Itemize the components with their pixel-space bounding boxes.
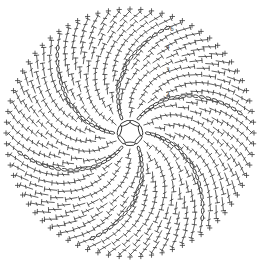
single-crochet-stitch [40, 218, 44, 222]
double-crochet-stitch [222, 88, 235, 95]
double-crochet-stitch [110, 196, 119, 205]
double-crochet-stitch [120, 197, 128, 207]
round-number-label: 4 [166, 43, 170, 50]
double-crochet-stitch [179, 174, 184, 185]
single-crochet-stitch [26, 202, 30, 206]
double-crochet-stitch [56, 129, 66, 136]
double-crochet-stitch [89, 26, 96, 39]
double-crochet-stitch [160, 166, 165, 176]
double-crochet-stitch [140, 90, 148, 99]
double-crochet-stitch [88, 242, 101, 250]
double-crochet-stitch [59, 108, 68, 118]
chain-link [120, 119, 131, 127]
double-crochet-stitch [34, 71, 39, 84]
double-crochet-stitch [193, 120, 204, 126]
center-chain-ring [117, 119, 144, 145]
double-crochet-stitch [49, 40, 53, 53]
double-crochet-stitch [110, 11, 120, 23]
double-crochet-stitch [122, 236, 133, 247]
double-crochet-stitch [142, 195, 148, 206]
double-crochet-stitch [131, 88, 137, 98]
double-crochet-stitch [204, 127, 215, 135]
double-crochet-stitch [77, 94, 84, 104]
double-crochet-stitch [153, 211, 159, 223]
double-crochet-stitch [169, 194, 173, 205]
round-number-label: 6 [170, 25, 174, 32]
double-crochet-stitch [216, 168, 223, 180]
double-crochet-stitch [113, 71, 118, 82]
double-crochet-stitch [221, 197, 225, 210]
double-crochet-stitch [185, 166, 191, 177]
double-crochet-stitch [110, 92, 114, 102]
double-crochet-stitch [76, 138, 86, 143]
double-crochet-stitch [79, 149, 89, 153]
double-crochet-stitch [41, 47, 45, 60]
double-crochet-stitch [219, 159, 227, 171]
double-crochet-stitch [60, 230, 74, 235]
double-crochet-stitch [147, 152, 153, 162]
double-crochet-stitch [101, 214, 112, 223]
double-crochet-stitch [28, 148, 40, 156]
double-crochet-stitch [69, 89, 75, 100]
double-crochet-stitch [139, 244, 149, 256]
double-crochet-stitch [48, 207, 61, 211]
single-crochet-stitch [57, 29, 61, 33]
double-crochet-stitch [209, 84, 221, 89]
double-crochet-stitch [222, 120, 233, 129]
double-crochet-stitch [47, 55, 51, 68]
double-crochet-stitch [76, 81, 81, 92]
double-crochet-stitch [71, 189, 82, 193]
double-crochet-stitch [202, 90, 214, 95]
double-crochet-stitch [200, 156, 208, 167]
double-crochet-stitch [164, 124, 174, 128]
double-crochet-stitch [100, 184, 110, 192]
double-crochet-stitch [132, 69, 139, 79]
double-crochet-stitch [154, 231, 162, 243]
double-crochet-stitch [19, 110, 28, 122]
double-crochet-stitch [215, 190, 219, 203]
double-crochet-stitch [100, 194, 110, 202]
double-crochet-stitch [151, 172, 155, 182]
double-crochet-stitch [182, 51, 194, 56]
double-crochet-stitch [52, 181, 64, 185]
double-crochet-stitch [183, 64, 195, 68]
double-crochet-stitch [100, 98, 106, 108]
double-crochet-stitch [17, 120, 27, 131]
double-crochet-stitch [171, 113, 181, 117]
double-crochet-stitch [74, 215, 86, 221]
double-crochet-stitch [231, 115, 243, 124]
double-crochet-stitch [98, 172, 108, 179]
double-crochet-stitch [138, 100, 145, 109]
double-crochet-stitch [135, 167, 139, 177]
double-crochet-stitch [108, 117, 116, 125]
double-crochet-stitch [185, 81, 196, 85]
double-crochet-stitch [63, 54, 67, 66]
double-crochet-stitch [37, 141, 48, 149]
double-crochet-stitch [119, 39, 127, 50]
double-crochet-stitch [170, 65, 181, 71]
double-crochet-stitch [190, 111, 201, 116]
double-crochet-stitch [162, 187, 166, 198]
double-crochet-stitch [144, 120, 154, 125]
double-crochet-stitch [197, 66, 209, 70]
double-crochet-stitch [159, 199, 164, 210]
double-crochet-stitch [196, 81, 208, 85]
chain-link [125, 142, 135, 146]
double-crochet-stitch [36, 130, 47, 139]
double-crochet-stitch [105, 84, 109, 94]
double-crochet-stitch [103, 64, 108, 75]
double-crochet-stitch [69, 235, 82, 241]
double-crochet-stitch [63, 160, 74, 164]
double-crochet-stitch [176, 162, 183, 172]
stitch-layer [4, 7, 256, 259]
single-crochet-stitch [48, 226, 52, 230]
double-crochet-stitch [144, 141, 152, 149]
double-crochet-stitch [64, 221, 77, 226]
double-crochet-stitch [39, 178, 51, 183]
double-crochet-stitch [14, 91, 22, 104]
double-crochet-stitch [42, 99, 50, 110]
double-crochet-stitch [32, 96, 40, 108]
double-crochet-stitch [73, 203, 85, 208]
double-crochet-stitch [186, 31, 200, 36]
double-crochet-stitch [112, 235, 123, 245]
